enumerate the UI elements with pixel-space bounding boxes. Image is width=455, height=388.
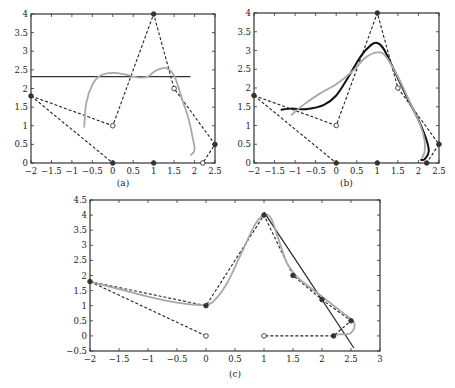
control-point-filled <box>204 303 209 308</box>
axes-box <box>254 13 439 163</box>
y-tick-label: 1 <box>246 121 251 131</box>
secondary-polygon-dashed <box>90 282 206 336</box>
approximating-curve <box>84 68 194 156</box>
gray-curve <box>291 52 425 158</box>
panel-c: −2−1.5−1−0.500.511.522.53−0.500.511.522.… <box>66 195 382 379</box>
x-tick-label: −1 <box>66 166 79 176</box>
control-point-open <box>204 334 209 339</box>
x-tick-label: 0.5 <box>350 166 364 176</box>
control-point-filled <box>151 12 156 17</box>
y-tick-label: 3 <box>82 240 87 250</box>
x-tick-label: 0.5 <box>126 166 140 176</box>
x-tick-label: −0.5 <box>305 166 326 176</box>
x-tick-label: 2 <box>319 354 324 364</box>
x-tick-label: 2.5 <box>432 166 446 176</box>
x-tick-label: 3 <box>377 354 382 364</box>
x-tick-label: 1 <box>261 354 266 364</box>
y-tick-label: 1 <box>23 121 28 131</box>
axes-box <box>31 14 215 163</box>
control-polygon-dashed <box>254 13 439 163</box>
y-tick-label: 4 <box>23 9 28 19</box>
control-polygon-dashed <box>31 14 215 163</box>
x-tick-label: 1.5 <box>167 166 181 176</box>
y-tick-label: 2 <box>82 271 87 281</box>
y-tick-label: 1.5 <box>14 102 28 112</box>
y-tick-label: −0.5 <box>66 346 87 356</box>
control-point-filled <box>424 161 429 166</box>
x-tick-label: −1.5 <box>41 166 62 176</box>
control-point-filled <box>331 334 336 339</box>
panel-caption: (b) <box>340 178 353 188</box>
secondary-polygon-dashed <box>31 96 113 163</box>
control-point-filled <box>320 297 325 302</box>
control-point-open <box>334 123 339 128</box>
control-point-filled <box>375 11 380 16</box>
x-tick-label: 0 <box>203 354 208 364</box>
y-tick-label: 0 <box>82 331 87 341</box>
y-tick-label: 2.5 <box>14 65 28 75</box>
x-tick-label: 1 <box>151 166 156 176</box>
control-point-open <box>172 86 177 91</box>
y-tick-label: 0 <box>246 158 251 168</box>
axes-box <box>90 200 380 351</box>
y-tick-label: 3 <box>23 46 28 56</box>
y-tick-label: 3.5 <box>14 28 28 38</box>
control-point-filled <box>291 273 296 278</box>
x-tick-label: 2 <box>192 166 197 176</box>
x-tick-label: −1 <box>289 166 302 176</box>
x-tick-label: −1 <box>142 354 155 364</box>
x-tick-label: 2 <box>416 166 421 176</box>
y-tick-label: 1 <box>82 301 87 311</box>
y-tick-label: 4 <box>246 8 251 18</box>
x-tick-label: 0.5 <box>228 354 242 364</box>
figure: −2−1.5−1−0.500.511.522.500.511.522.533.5… <box>0 0 455 388</box>
y-tick-label: 0.5 <box>237 139 251 149</box>
x-tick-label: −1.5 <box>109 354 130 364</box>
y-tick-label: 3.5 <box>237 27 251 37</box>
control-point-open <box>262 334 267 339</box>
y-tick-label: 0.5 <box>73 316 87 326</box>
gray-curve <box>90 215 355 336</box>
control-polygon-dashed <box>90 215 351 336</box>
x-tick-label: 1.5 <box>286 354 300 364</box>
control-point-filled <box>213 142 218 147</box>
control-point-open <box>110 123 115 128</box>
control-point-open <box>200 161 205 166</box>
control-point-filled <box>252 93 257 98</box>
control-point-filled <box>349 319 354 324</box>
tangent-line <box>264 212 354 348</box>
y-tick-label: 2 <box>23 84 28 94</box>
panel-b: −2−1.5−1−0.500.511.522.500.511.522.533.5… <box>237 8 445 188</box>
y-tick-label: 0.5 <box>14 139 28 149</box>
control-point-filled <box>437 142 442 147</box>
x-tick-label: 1.5 <box>391 166 405 176</box>
control-point-filled <box>375 161 380 166</box>
y-tick-label: 0 <box>23 158 28 168</box>
x-tick-label: −0.5 <box>82 166 103 176</box>
y-tick-label: 3.5 <box>73 225 87 235</box>
dark-curve <box>281 43 429 160</box>
x-tick-label: 1 <box>375 166 380 176</box>
control-point-filled <box>88 279 93 284</box>
x-tick-label: 0 <box>110 166 115 176</box>
y-tick-label: 1.5 <box>73 286 87 296</box>
x-tick-label: −0.5 <box>167 354 188 364</box>
panel-caption: (a) <box>117 178 129 188</box>
control-point-filled <box>151 161 156 166</box>
control-point-filled <box>334 161 339 166</box>
y-tick-label: 2.5 <box>73 255 87 265</box>
y-tick-label: 2.5 <box>237 64 251 74</box>
control-point-open <box>396 86 401 91</box>
y-tick-label: 4.5 <box>73 195 87 205</box>
x-tick-label: −1.5 <box>264 166 285 176</box>
y-tick-label: 4 <box>82 210 87 220</box>
panel-a: −2−1.5−1−0.500.511.522.500.511.522.533.5… <box>14 9 221 188</box>
control-point-filled <box>110 161 115 166</box>
control-point-filled <box>262 213 267 218</box>
control-point-filled <box>29 94 34 99</box>
panel-caption: (c) <box>229 369 241 379</box>
y-tick-label: 2 <box>246 83 251 93</box>
x-tick-label: 2.5 <box>208 166 222 176</box>
x-tick-label: 2.5 <box>344 354 358 364</box>
y-tick-label: 3 <box>246 46 251 56</box>
